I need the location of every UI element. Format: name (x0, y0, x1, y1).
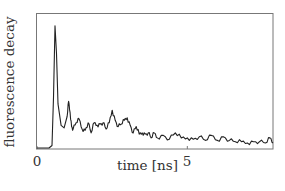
y-axis-label: fluorescence decay (1, 76, 17, 88)
y-axis-label-text: fluorescence decay (1, 16, 17, 147)
x-axis-label: time [ns] (0, 157, 285, 173)
decay-curve (37, 26, 273, 148)
